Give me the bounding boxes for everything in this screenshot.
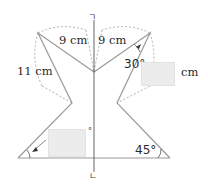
bottom-right-angle-label: 45° (135, 144, 156, 156)
axis-bottom-mark: ㄴ (89, 172, 97, 181)
bottom-right-angle-arc (158, 149, 161, 158)
left-top-length-label: 9 cm (59, 35, 87, 47)
left-angle-answer-box[interactable] (48, 129, 86, 157)
right-top-length-label: 9 cm (98, 35, 126, 47)
bottom-left-angle-arc (27, 150, 30, 158)
axis-top-mark: ㄱ (88, 13, 96, 22)
right-length-answer-box[interactable] (141, 62, 175, 86)
right-length-answer-unit: cm (181, 67, 198, 79)
left-angle-degree-unit: ° (88, 128, 92, 136)
folded-shape-diagram (0, 0, 208, 192)
left-side-length-label: 11 cm (17, 66, 53, 78)
